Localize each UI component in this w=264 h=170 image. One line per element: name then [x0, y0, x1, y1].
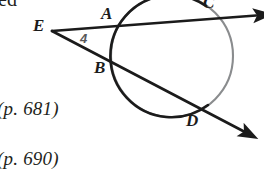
point-label-b: B	[94, 59, 105, 76]
page-reference-690: (p. 690)	[0, 149, 59, 168]
point-label-d: D	[186, 112, 198, 129]
point-label-a: A	[101, 5, 112, 22]
circle-outline-dark-arc	[110, 0, 208, 117]
angle-label-4: 4	[80, 32, 87, 45]
page-reference-681: (p. 681)	[0, 99, 59, 118]
point-label-c: C	[203, 0, 214, 11]
figure-canvas: ed A C E B D 4 (p. 681) (p. 690)	[0, 0, 264, 170]
secant-line-ebd	[52, 31, 243, 131]
point-label-e: E	[33, 17, 44, 34]
